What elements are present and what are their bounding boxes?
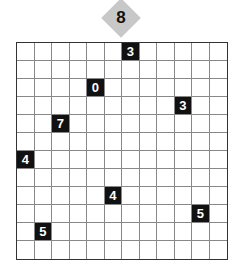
grid-cell[interactable] bbox=[140, 61, 158, 79]
grid-cell[interactable] bbox=[122, 151, 140, 169]
grid-cell[interactable] bbox=[70, 205, 88, 223]
grid-cell[interactable] bbox=[105, 133, 123, 151]
grid-cell[interactable] bbox=[157, 169, 175, 187]
grid-cell[interactable] bbox=[52, 43, 70, 61]
grid-cell[interactable] bbox=[35, 169, 53, 187]
grid-cell[interactable] bbox=[105, 43, 123, 61]
grid-cell[interactable] bbox=[192, 79, 210, 97]
grid-cell[interactable] bbox=[140, 43, 158, 61]
grid-cell[interactable] bbox=[87, 241, 105, 259]
grid-cell[interactable] bbox=[122, 169, 140, 187]
grid-cell[interactable] bbox=[175, 205, 193, 223]
grid-cell[interactable] bbox=[157, 97, 175, 115]
grid-cell[interactable] bbox=[140, 223, 158, 241]
grid-cell[interactable] bbox=[157, 223, 175, 241]
grid-cell[interactable] bbox=[87, 115, 105, 133]
grid-cell[interactable] bbox=[17, 43, 35, 61]
grid-cell[interactable] bbox=[140, 187, 158, 205]
grid-cell[interactable] bbox=[192, 43, 210, 61]
grid-cell[interactable] bbox=[122, 115, 140, 133]
grid-cell[interactable] bbox=[210, 151, 228, 169]
grid-cell[interactable] bbox=[35, 115, 53, 133]
grid-cell[interactable] bbox=[122, 133, 140, 151]
grid-cell[interactable] bbox=[105, 205, 123, 223]
grid-cell[interactable] bbox=[52, 133, 70, 151]
grid-cell[interactable] bbox=[157, 187, 175, 205]
grid-cell[interactable] bbox=[140, 241, 158, 259]
grid-cell[interactable] bbox=[140, 133, 158, 151]
grid-cell[interactable] bbox=[122, 187, 140, 205]
grid-cell[interactable] bbox=[210, 97, 228, 115]
grid-cell[interactable] bbox=[17, 223, 35, 241]
grid-cell[interactable] bbox=[140, 169, 158, 187]
grid-cell[interactable] bbox=[35, 241, 53, 259]
grid-cell[interactable] bbox=[35, 151, 53, 169]
grid-cell[interactable] bbox=[87, 97, 105, 115]
grid-cell[interactable] bbox=[35, 187, 53, 205]
grid-cell[interactable] bbox=[87, 223, 105, 241]
grid-cell[interactable] bbox=[52, 97, 70, 115]
grid-cell[interactable] bbox=[192, 115, 210, 133]
grid-cell[interactable] bbox=[122, 241, 140, 259]
grid-cell[interactable] bbox=[52, 169, 70, 187]
grid-cell[interactable] bbox=[140, 115, 158, 133]
grid-cell[interactable] bbox=[35, 43, 53, 61]
grid-cell[interactable] bbox=[175, 133, 193, 151]
grid-cell[interactable] bbox=[210, 115, 228, 133]
grid-cell[interactable] bbox=[210, 187, 228, 205]
grid-cell[interactable] bbox=[175, 151, 193, 169]
grid-cell[interactable] bbox=[105, 169, 123, 187]
grid-cell[interactable] bbox=[175, 61, 193, 79]
grid-cell[interactable] bbox=[52, 223, 70, 241]
grid-cell[interactable] bbox=[192, 97, 210, 115]
grid-cell[interactable] bbox=[175, 187, 193, 205]
grid-cell[interactable] bbox=[17, 187, 35, 205]
grid-cell[interactable] bbox=[192, 187, 210, 205]
grid-cell[interactable] bbox=[35, 133, 53, 151]
grid-cell[interactable] bbox=[70, 61, 88, 79]
grid-cell[interactable] bbox=[192, 223, 210, 241]
grid-cell[interactable] bbox=[140, 205, 158, 223]
grid-cell[interactable] bbox=[17, 61, 35, 79]
grid-cell[interactable] bbox=[210, 79, 228, 97]
grid-cell[interactable] bbox=[140, 97, 158, 115]
grid-cell[interactable] bbox=[157, 43, 175, 61]
grid-cell[interactable] bbox=[70, 169, 88, 187]
grid-cell[interactable] bbox=[175, 115, 193, 133]
grid-cell[interactable] bbox=[175, 223, 193, 241]
grid-cell[interactable] bbox=[157, 133, 175, 151]
grid-cell[interactable] bbox=[17, 79, 35, 97]
grid-cell[interactable] bbox=[52, 79, 70, 97]
grid-cell[interactable] bbox=[17, 169, 35, 187]
grid-cell[interactable] bbox=[35, 97, 53, 115]
grid-cell[interactable] bbox=[35, 205, 53, 223]
grid-cell[interactable] bbox=[192, 133, 210, 151]
grid-cell[interactable] bbox=[122, 79, 140, 97]
grid-cell[interactable] bbox=[70, 223, 88, 241]
grid-cell[interactable] bbox=[17, 241, 35, 259]
grid-cell[interactable] bbox=[70, 241, 88, 259]
grid-cell[interactable] bbox=[210, 223, 228, 241]
grid-cell[interactable] bbox=[70, 151, 88, 169]
grid-cell[interactable] bbox=[157, 115, 175, 133]
grid-cell[interactable] bbox=[87, 43, 105, 61]
grid-cell[interactable] bbox=[87, 151, 105, 169]
grid-cell[interactable] bbox=[105, 151, 123, 169]
grid-cell[interactable] bbox=[70, 187, 88, 205]
grid-cell[interactable] bbox=[192, 169, 210, 187]
grid-cell[interactable] bbox=[87, 205, 105, 223]
grid-cell[interactable] bbox=[210, 241, 228, 259]
grid-cell[interactable] bbox=[157, 61, 175, 79]
grid-cell[interactable] bbox=[105, 97, 123, 115]
grid-cell[interactable] bbox=[70, 133, 88, 151]
grid-cell[interactable] bbox=[210, 43, 228, 61]
grid-cell[interactable] bbox=[35, 61, 53, 79]
grid-cell[interactable] bbox=[175, 169, 193, 187]
grid-cell[interactable] bbox=[70, 115, 88, 133]
grid-cell[interactable] bbox=[157, 241, 175, 259]
grid-cell[interactable] bbox=[17, 115, 35, 133]
grid-cell[interactable] bbox=[70, 97, 88, 115]
grid-cell[interactable] bbox=[210, 169, 228, 187]
grid-cell[interactable] bbox=[17, 97, 35, 115]
grid-cell[interactable] bbox=[70, 43, 88, 61]
